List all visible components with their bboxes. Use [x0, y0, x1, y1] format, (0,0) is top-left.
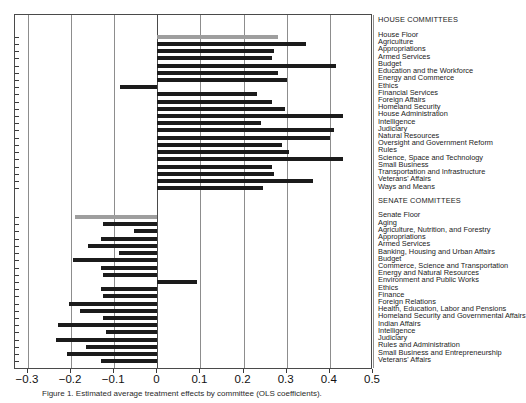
y-tick-mark — [15, 116, 19, 117]
gridline — [373, 15, 374, 368]
group-heading: SENATE COMMITTEES — [378, 197, 461, 205]
y-tick-mark — [15, 311, 19, 312]
y-tick-mark — [15, 145, 19, 146]
y-tick-mark — [15, 354, 19, 355]
bar — [157, 49, 273, 53]
y-tick-mark — [15, 246, 19, 247]
zero-axis-line — [157, 15, 158, 368]
category-label-column: HOUSE COMMITTEESHouse FloorAgricultureAp… — [378, 14, 519, 369]
y-tick-mark — [15, 347, 19, 348]
bar — [101, 359, 157, 363]
y-tick-mark — [15, 102, 19, 103]
y-tick-mark — [15, 94, 19, 95]
gridline — [71, 15, 72, 368]
y-tick-mark — [15, 318, 19, 319]
bar — [157, 35, 278, 39]
bar — [157, 128, 334, 132]
y-tick-mark — [15, 159, 19, 160]
bar — [157, 56, 271, 60]
bar — [56, 338, 157, 342]
y-tick-mark — [15, 304, 19, 305]
y-tick-mark — [15, 188, 19, 189]
bar — [157, 136, 330, 140]
category-label: Ways and Means — [378, 183, 435, 191]
bar — [157, 143, 282, 147]
y-tick-mark — [15, 37, 19, 38]
bar — [80, 309, 158, 313]
y-tick-mark — [15, 123, 19, 124]
bar — [86, 345, 157, 349]
x-tick-label: 0.4 — [321, 373, 337, 385]
y-tick-mark — [15, 361, 19, 362]
y-tick-mark — [15, 109, 19, 110]
y-tick-mark — [15, 231, 19, 232]
bar — [103, 273, 157, 277]
bar — [58, 323, 157, 327]
x-tick-label: 0.2 — [235, 373, 251, 385]
bar — [157, 179, 312, 183]
bar — [157, 150, 289, 154]
x-tick-label: 0 — [153, 373, 159, 385]
bar — [101, 266, 157, 270]
bar — [157, 92, 256, 96]
y-tick-mark — [15, 44, 19, 45]
y-tick-mark — [15, 289, 19, 290]
bar — [101, 237, 157, 241]
bar — [69, 302, 157, 306]
bar — [157, 157, 342, 161]
y-tick-mark — [15, 239, 19, 240]
y-tick-mark — [15, 181, 19, 182]
bar — [157, 100, 271, 104]
bar — [157, 71, 278, 75]
y-tick-mark — [15, 58, 19, 59]
y-tick-mark — [15, 296, 19, 297]
y-tick-mark — [15, 325, 19, 326]
y-tick-mark — [15, 87, 19, 88]
bar — [103, 294, 157, 298]
y-tick-mark — [15, 73, 19, 74]
gridline — [200, 15, 201, 368]
bar — [157, 165, 271, 169]
y-tick-mark — [15, 152, 19, 153]
x-axis: −0.3−0.2−0.100.10.20.30.40.5 — [14, 369, 372, 391]
bar — [157, 78, 286, 82]
bar — [67, 352, 158, 356]
bar — [119, 251, 158, 255]
plot-area — [14, 14, 372, 369]
bar — [88, 244, 157, 248]
bar — [157, 107, 284, 111]
bar — [73, 258, 157, 262]
figure-caption: Figure 1. Estimated average treatment ef… — [42, 389, 482, 402]
y-tick-mark — [15, 340, 19, 341]
bar — [134, 229, 158, 233]
bar — [75, 215, 157, 219]
y-tick-mark — [15, 138, 19, 139]
gridline — [28, 15, 29, 368]
x-tick-label: −0.1 — [102, 373, 125, 385]
y-tick-mark — [15, 66, 19, 67]
x-tick-label: −0.2 — [59, 373, 82, 385]
y-tick-mark — [15, 282, 19, 283]
y-tick-mark — [15, 167, 19, 168]
bar — [103, 222, 157, 226]
bar — [157, 172, 273, 176]
gridline — [287, 15, 288, 368]
bar — [157, 42, 306, 46]
bar — [103, 316, 157, 320]
gridline — [330, 15, 331, 368]
bar — [120, 85, 157, 89]
y-tick-mark — [15, 217, 19, 218]
bar — [101, 287, 157, 291]
y-tick-mark — [15, 174, 19, 175]
x-tick-label: 0.1 — [191, 373, 207, 385]
y-tick-mark — [15, 332, 19, 333]
y-tick-mark — [15, 268, 19, 269]
bar — [106, 330, 158, 334]
x-tick-label: 0.5 — [364, 373, 380, 385]
gridline — [244, 15, 245, 368]
bar — [157, 186, 263, 190]
y-tick-mark — [15, 260, 19, 261]
category-label: Veterans' Affairs — [378, 356, 431, 364]
x-tick-label: −0.3 — [16, 373, 39, 385]
